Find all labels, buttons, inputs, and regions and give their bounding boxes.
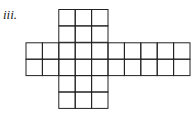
grid-cell	[92, 76, 108, 92]
grid-cell	[92, 59, 108, 75]
grid-cell	[141, 43, 157, 59]
grid-cell	[141, 59, 157, 75]
grid-cell	[75, 92, 91, 108]
grid-cell	[59, 76, 75, 92]
grid-cell	[92, 10, 108, 26]
grid-cell	[108, 59, 124, 75]
grid-cell	[157, 43, 173, 59]
grid-cell	[42, 59, 58, 75]
grid-cell	[59, 26, 75, 42]
grid-cell	[75, 59, 91, 75]
grid-cell	[174, 59, 190, 75]
grid-cell	[108, 43, 124, 59]
grid-cell	[92, 43, 108, 59]
grid-cell	[75, 43, 91, 59]
grid-cell	[157, 59, 173, 75]
grid-cell	[26, 43, 42, 59]
grid-cell	[174, 43, 190, 59]
grid-cell	[75, 10, 91, 26]
grid-cell	[92, 92, 108, 108]
grid-cell	[42, 43, 58, 59]
grid-cell	[75, 76, 91, 92]
grid-cell	[59, 59, 75, 75]
grid-cell	[124, 43, 140, 59]
grid-cell	[26, 59, 42, 75]
grid-cell	[59, 92, 75, 108]
cube-net-grid	[0, 0, 195, 140]
grid-cell	[92, 26, 108, 42]
grid-cell	[124, 59, 140, 75]
grid-cell	[59, 43, 75, 59]
grid-cell	[59, 10, 75, 26]
grid-cell	[75, 26, 91, 42]
